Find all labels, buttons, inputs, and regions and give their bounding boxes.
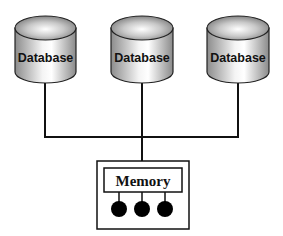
memory-port-icon [134, 201, 150, 217]
database-3: Database [207, 16, 269, 83]
memory-unit: Memory [97, 161, 189, 229]
memory-port-icon [111, 201, 127, 217]
diagram-svg: Database Database Database Memory [0, 0, 283, 236]
database-label: Database [114, 51, 170, 65]
database-2: Database [111, 16, 173, 83]
diagram-canvas: Database Database Database Memory [0, 0, 283, 236]
memory-port-icon [157, 201, 173, 217]
connector-lines [44, 80, 239, 162]
database-label: Database [18, 51, 74, 65]
memory-label: Memory [116, 173, 171, 189]
database-1: Database [15, 16, 76, 83]
database-label: Database [210, 51, 266, 65]
